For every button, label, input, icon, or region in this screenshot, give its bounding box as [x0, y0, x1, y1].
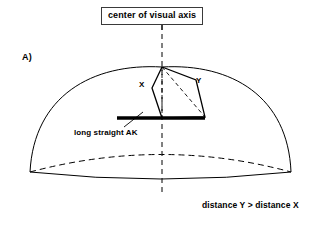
title-box-center-of-visual-axis: center of visual axis	[101, 7, 203, 25]
polygon-region-path	[152, 67, 205, 118]
panel-label-a: A)	[22, 52, 32, 62]
distance-label-x: X	[139, 80, 144, 89]
dome-base-back-path	[30, 155, 291, 173]
distance-label-y: Y	[196, 76, 201, 85]
diagram-canvas	[0, 0, 333, 226]
caption-distance-comparison: distance Y > distance X	[202, 200, 299, 210]
label-long-straight-ak: long straight AK	[74, 128, 138, 137]
dome-base-front-path	[30, 172, 291, 179]
